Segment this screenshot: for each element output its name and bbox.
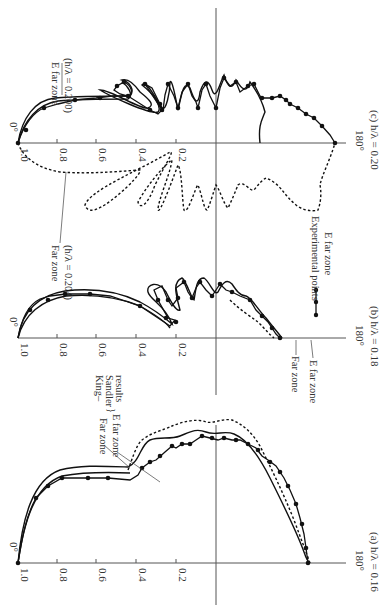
angle-label-0: 0° (8, 317, 20, 327)
king-sandler-label-2: Sandler (104, 375, 115, 408)
brace: } (106, 408, 117, 413)
experimental-point (180, 442, 185, 447)
experimental-point (166, 298, 171, 303)
experimental-point (126, 94, 131, 99)
panel-c-caption: (c) h/λ = 0.20 (368, 110, 381, 170)
panel-a-caption: (a) h/λ = 0.16 (368, 532, 381, 592)
panel-c-tick-labels: 1.0 0.8 0.6 0.4 0.2 0° 180° (c) h/λ = 0.… (8, 110, 381, 170)
experimental-point (204, 82, 209, 87)
experimental-point (98, 96, 103, 101)
angle-label-0: 0° (8, 122, 20, 132)
experimental-point (148, 108, 153, 113)
c-e-far-zone-label: E far zone (50, 62, 61, 105)
angle-label-0: 0° (8, 542, 20, 552)
c-e-far-zone-h-label: (h/λ = 0.200) (62, 58, 74, 114)
experimental-point (234, 80, 239, 85)
tick-label: 0.4 (137, 343, 149, 357)
panel-b-caption: (b) h/λ = 0.18 (368, 306, 381, 367)
tick-label: 1.0 (19, 148, 31, 162)
king-sandler-label-3: results (114, 375, 125, 402)
panel-b-curves (18, 278, 282, 340)
experimental-point (198, 280, 203, 285)
experimental-point (170, 444, 175, 449)
experimental-point (176, 106, 181, 111)
experimental-point (115, 84, 120, 89)
experimental-point (188, 442, 193, 447)
a-experimental-curve (18, 436, 308, 563)
angle-label-180: 180° (354, 325, 366, 346)
experimental-point (176, 296, 181, 301)
experimental-point (300, 522, 305, 527)
experimental-point (156, 298, 161, 303)
experimental-point (28, 308, 33, 313)
experimental-point (86, 476, 91, 481)
experimental-point (260, 314, 265, 319)
experimental-point (234, 438, 239, 443)
experimental-point (270, 326, 275, 331)
b-far-zone-label: Far zone (290, 356, 301, 393)
experimental-point (200, 434, 205, 439)
tick-label: 0.4 (137, 148, 149, 162)
experimental-point (106, 476, 111, 481)
tick-label: 0.6 (97, 343, 109, 357)
panel-b-axes (18, 334, 346, 338)
experimental-point (214, 106, 219, 111)
experimental-point (230, 290, 235, 295)
experimental-point (46, 484, 51, 489)
experimental-point (46, 298, 51, 303)
tick-label: 0.6 (97, 568, 109, 582)
experimental-point (186, 82, 191, 87)
experimental-point (210, 294, 215, 299)
king-sandler-label-1: King– (94, 375, 105, 402)
tick-label: 0.6 (97, 148, 109, 162)
a-e-far-zone-curve-inner (18, 472, 130, 563)
tick-label: 1.0 (19, 343, 31, 357)
tick-label: 0.2 (177, 568, 189, 582)
experimental-point (190, 296, 195, 301)
experimental-point (143, 82, 148, 87)
experimental-point (222, 76, 227, 81)
a-far-zone-dashed-curve (128, 420, 310, 563)
experimental-point (246, 84, 251, 89)
experimental-point (294, 502, 299, 507)
experimental-point (248, 298, 253, 303)
c-far-zone-label: Far zone (50, 245, 61, 282)
a-e-far-zone-label: E far zone (111, 414, 122, 457)
experimental-point (210, 436, 215, 441)
experimental-point (164, 316, 169, 321)
experimental-point (256, 448, 261, 453)
experimental-point (286, 484, 291, 489)
experimental-point (160, 108, 165, 113)
experimental-point (182, 280, 187, 285)
experimental-point (88, 292, 93, 297)
experimental-point (288, 102, 293, 107)
experimental-point (252, 82, 257, 87)
experimental-point (196, 106, 201, 111)
experimental-point (174, 320, 179, 325)
c-far-zone-leader (60, 172, 66, 243)
experimental-point (42, 106, 47, 111)
panel-b-tick-labels: 1.0 0.8 0.6 0.4 0.2 0° 180° (b) h/λ = 0.… (8, 306, 381, 367)
panel-a-tick-labels: 1.0 0.8 0.6 0.4 0.2 0° 180° (a) h/λ = 0.… (8, 532, 381, 592)
experimental-point (320, 124, 325, 129)
experimental-point (16, 561, 21, 566)
experimental-point (312, 116, 317, 121)
experimental-point (304, 546, 309, 551)
tick-label: 0.8 (58, 568, 70, 582)
experimental-point (296, 106, 301, 111)
b-e-far-zone-label: E far zone (308, 360, 319, 403)
a-far-zone-label: Far zone (98, 418, 109, 455)
experimental-point (260, 96, 265, 101)
tick-label: 0.2 (177, 148, 189, 162)
legend-dot (314, 313, 318, 317)
experimental-point (218, 282, 223, 287)
experimental-point (268, 460, 273, 465)
experimental-point (138, 304, 143, 309)
panel-c-annotations: E far zone (h/λ = 0.200) Far zone (h/λ =… (50, 58, 74, 301)
experimental-point (333, 141, 338, 146)
experimental-point (278, 336, 283, 341)
figure-canvas: 1.0 0.8 0.6 0.4 0.2 0° 180° (c) h/λ = 0.… (0, 0, 388, 613)
tick-label: 0.8 (58, 343, 70, 357)
experimental-point (158, 102, 163, 107)
tick-label: 0.4 (137, 568, 149, 582)
